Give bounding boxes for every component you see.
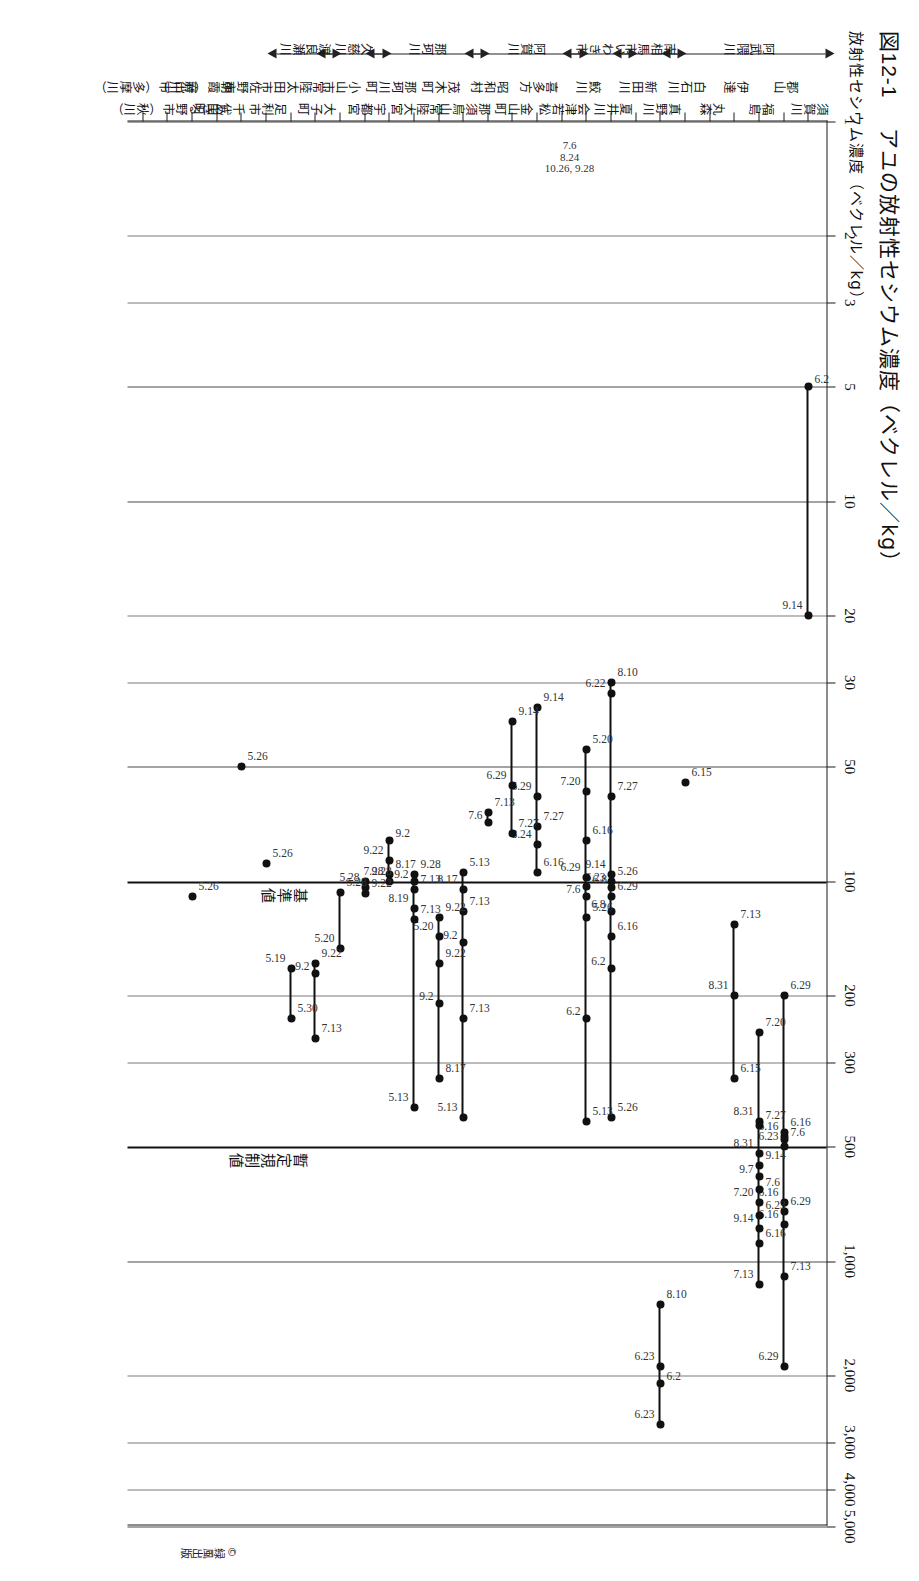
data-point-label: 6.2 bbox=[814, 373, 828, 385]
data-point bbox=[410, 915, 418, 923]
river-arrow-up-icon bbox=[825, 48, 834, 58]
data-point bbox=[311, 959, 319, 967]
data-point bbox=[656, 1300, 664, 1308]
data-point bbox=[607, 932, 615, 940]
axis-tick-5 bbox=[826, 386, 835, 387]
data-point bbox=[607, 892, 615, 900]
data-point bbox=[262, 859, 270, 867]
site-label: 福島 bbox=[747, 86, 773, 114]
data-point-label: 5.26 bbox=[272, 847, 292, 859]
data-point bbox=[656, 1420, 664, 1428]
data-point-label: 7.13 bbox=[321, 1022, 341, 1034]
data-point-label: 6.16 bbox=[617, 920, 637, 932]
data-point bbox=[582, 836, 590, 844]
gridline-30 bbox=[127, 682, 826, 683]
data-point bbox=[755, 1198, 763, 1206]
axis-tick-2000 bbox=[826, 1375, 835, 1376]
river-arrow-up-icon bbox=[677, 48, 686, 58]
data-point bbox=[780, 1272, 788, 1280]
data-point bbox=[730, 1074, 738, 1082]
river-label: 渡良瀬川 bbox=[278, 38, 330, 57]
data-point bbox=[730, 991, 738, 999]
data-point-label: 5.26 bbox=[617, 1101, 637, 1113]
data-point bbox=[410, 1103, 418, 1111]
data-point bbox=[459, 938, 467, 946]
gridline-200 bbox=[127, 995, 826, 996]
data-point bbox=[533, 840, 541, 848]
data-point-label: 6.23 bbox=[634, 1408, 654, 1420]
data-point bbox=[484, 818, 492, 826]
figure-stage: 図12-1 アユの放射性セシウム濃度（ベクレル／kg） 放射性セシウム濃度（ベク… bbox=[0, 0, 919, 1581]
data-point-label: 5.13 bbox=[592, 1105, 612, 1117]
data-point bbox=[755, 1028, 763, 1036]
data-point-label: 9.22 bbox=[363, 844, 383, 856]
data-point bbox=[435, 999, 443, 1007]
axis-tick-100 bbox=[826, 881, 835, 882]
data-point-label: 5.19 bbox=[265, 952, 285, 964]
figure-title: 図12-1 アユの放射性セシウム濃度（ベクレル／kg） bbox=[875, 30, 905, 573]
axis-tick-label: 2,000 bbox=[840, 1358, 857, 1392]
data-point bbox=[410, 877, 418, 885]
data-point bbox=[410, 885, 418, 893]
axis-tick-label: 20 bbox=[840, 608, 857, 623]
threshold-label: 基準値 bbox=[259, 884, 307, 905]
row-tick bbox=[339, 112, 340, 121]
data-point bbox=[804, 382, 812, 390]
data-point-label: 6.23 bbox=[765, 1199, 785, 1211]
data-point-label: 9.2 bbox=[295, 960, 309, 972]
data-point bbox=[459, 885, 467, 893]
axis-tick-200 bbox=[826, 995, 835, 996]
data-point-label: 6.22 bbox=[585, 677, 605, 689]
data-point-label: 6.16 bbox=[790, 1116, 810, 1128]
data-point-label: 7.20 bbox=[560, 775, 580, 787]
gridline-3000 bbox=[127, 1442, 826, 1443]
axis-tick-label: 5 bbox=[840, 383, 857, 391]
data-point bbox=[607, 792, 615, 800]
data-point-label: 9.2 bbox=[443, 929, 457, 941]
gridline-300 bbox=[127, 1062, 826, 1063]
data-point bbox=[780, 1362, 788, 1370]
row-range-line bbox=[806, 386, 808, 615]
data-point-label: 5.20 bbox=[314, 931, 334, 943]
river-arrow-up-icon bbox=[628, 48, 637, 58]
row-tick bbox=[684, 112, 685, 121]
data-point bbox=[435, 1074, 443, 1082]
data-point-label: 6.29 bbox=[790, 979, 810, 991]
axis-tick-label: 10 bbox=[840, 493, 857, 508]
data-point bbox=[755, 1161, 763, 1169]
gridline-500 bbox=[127, 1146, 826, 1148]
data-point-label: 5.28 bbox=[346, 876, 366, 888]
site-label: 郡山 bbox=[772, 64, 798, 92]
data-point-label: 9.14 bbox=[733, 1212, 753, 1224]
axis-tick-label: 5,000 bbox=[840, 1509, 857, 1543]
data-point-label: 6.29 bbox=[486, 769, 506, 781]
axis-tick-3000 bbox=[826, 1442, 835, 1443]
data-point bbox=[656, 1362, 664, 1370]
data-point bbox=[385, 856, 393, 864]
data-point-label: 5.26 bbox=[592, 901, 612, 913]
data-point bbox=[410, 904, 418, 912]
row-range-line bbox=[289, 968, 291, 1018]
figure-number: 図12-1 bbox=[877, 30, 900, 98]
data-point-label: 7.27 bbox=[765, 1109, 785, 1121]
credit-text: ©緑風出版 bbox=[180, 1543, 237, 1559]
data-point bbox=[435, 959, 443, 967]
data-point bbox=[311, 1034, 319, 1042]
row-range-line bbox=[584, 749, 586, 1121]
data-point bbox=[804, 611, 812, 619]
data-point-label: 9.14 bbox=[782, 599, 802, 611]
data-point bbox=[508, 717, 516, 725]
data-point bbox=[607, 964, 615, 972]
data-point-label: 5.20 bbox=[592, 733, 612, 745]
data-point bbox=[582, 787, 590, 795]
axis-tick-20 bbox=[826, 615, 835, 616]
river-label: 阿武隈川 bbox=[722, 38, 774, 57]
axis-tick-500 bbox=[826, 1146, 835, 1147]
axis-tick-label: 100 bbox=[840, 869, 857, 892]
data-point bbox=[533, 792, 541, 800]
row-tick bbox=[733, 112, 734, 121]
note-cluster: 7.68.2410.26, 9.28 bbox=[544, 139, 594, 174]
axis-tick-2 bbox=[826, 235, 835, 236]
data-point-label: 7.27 bbox=[617, 780, 637, 792]
data-point bbox=[508, 781, 516, 789]
